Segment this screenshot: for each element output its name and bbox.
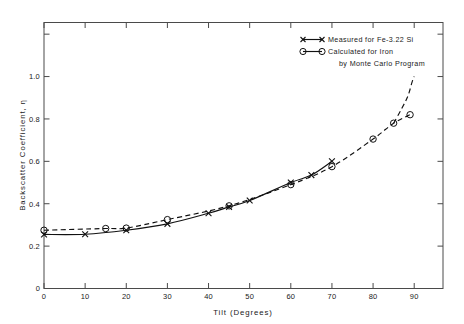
x-axis-ticks-top bbox=[44, 23, 414, 29]
x-tick-label: 20 bbox=[122, 292, 131, 301]
measured-markers bbox=[41, 158, 335, 237]
x-axis-ticks bbox=[44, 283, 414, 289]
legend-label-monte-carlo: by Monte Carlo Program bbox=[339, 59, 425, 68]
x-tick-label: 70 bbox=[328, 292, 337, 301]
x-tick-label: 0 bbox=[42, 292, 46, 301]
data-point-measured bbox=[247, 198, 253, 204]
x-tick-label: 50 bbox=[245, 292, 254, 301]
x-tick-label: 40 bbox=[204, 292, 213, 301]
legend-entry-calculated: Calculated for Iron bbox=[300, 47, 393, 56]
y-axis-ticks bbox=[44, 34, 50, 288]
legend: Measured for Fe-3.22 Si Calculated for I… bbox=[300, 35, 425, 68]
y-tick-label: 0.4 bbox=[29, 200, 40, 209]
legend-label-calculated: Calculated for Iron bbox=[328, 47, 393, 56]
y-tick-label: 0.6 bbox=[29, 157, 40, 166]
x-axis-tick-labels: 0102030405060708090 bbox=[42, 292, 419, 301]
legend-entry-measured: Measured for Fe-3.22 Si bbox=[301, 35, 414, 44]
y-axis-tick-labels: 00.20.40.60.81.0 bbox=[29, 72, 40, 293]
x-tick-label: 90 bbox=[410, 292, 419, 301]
calculated-for-iron-curve bbox=[44, 115, 410, 231]
x-tick-label: 10 bbox=[81, 292, 90, 301]
y-tick-label: 0 bbox=[36, 284, 40, 293]
chart-svg: 00.20.40.60.81.0 0102030405060708090 Til… bbox=[0, 0, 464, 324]
data-point-calculated bbox=[407, 112, 413, 118]
y-axis-ticks-right bbox=[438, 34, 444, 288]
measured-fe-si-curve bbox=[44, 161, 332, 234]
y-tick-label: 0.2 bbox=[29, 242, 40, 251]
legend-label-measured: Measured for Fe-3.22 Si bbox=[328, 35, 414, 44]
x-tick-label: 60 bbox=[286, 292, 295, 301]
y-axis-title: Backscatter Coefficient, η bbox=[18, 99, 27, 211]
x-tick-label: 30 bbox=[163, 292, 172, 301]
x-tick-label: 80 bbox=[369, 292, 378, 301]
y-tick-label: 1.0 bbox=[29, 72, 40, 81]
calculated-curve-extrapolation bbox=[394, 77, 415, 124]
backscatter-coefficient-chart: 00.20.40.60.81.0 0102030405060708090 Til… bbox=[0, 0, 464, 324]
y-tick-label: 0.8 bbox=[29, 115, 40, 124]
calculated-markers bbox=[41, 112, 413, 234]
x-axis-title: Tilt (Degrees) bbox=[213, 308, 273, 317]
data-series-group bbox=[41, 77, 414, 238]
